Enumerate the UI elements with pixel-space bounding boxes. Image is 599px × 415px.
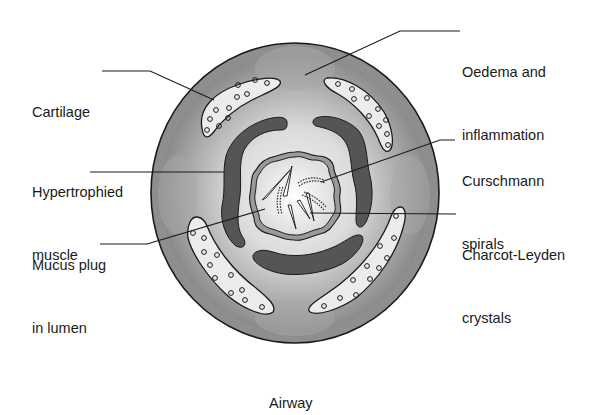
label-mucus-line1: Mucus plug	[32, 255, 106, 276]
label-curschmann-line1: Curschmann	[462, 171, 544, 192]
label-mucus-plug: Mucus plug in lumen	[32, 213, 106, 360]
label-cartilage-line1: Cartilage	[32, 102, 90, 123]
label-muscle-line1: Hypertrophied	[32, 182, 123, 203]
label-charcot-line2: crystals	[462, 308, 565, 329]
figure-caption: Airway	[269, 351, 313, 415]
label-mucus-line2: in lumen	[32, 318, 106, 339]
label-cartilage: Cartilage	[32, 60, 90, 144]
caption-text: Airway	[269, 393, 313, 414]
label-charcot-line1: Charcot-Leyden	[462, 245, 565, 266]
label-oedema-line1: Oedema and	[462, 62, 546, 83]
label-charcot-leyden-crystals: Charcot-Leyden crystals	[462, 203, 565, 350]
